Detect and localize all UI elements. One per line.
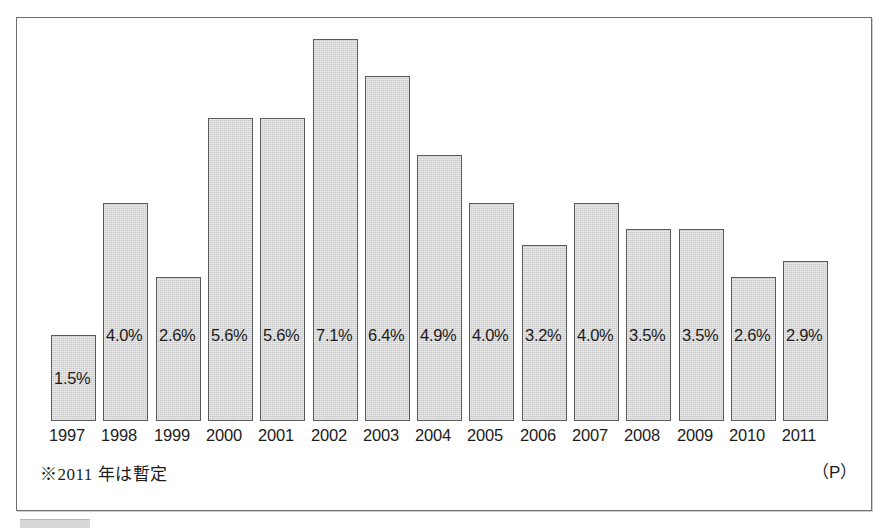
- bar-value-label: 3.5%: [629, 326, 681, 345]
- bar: [417, 155, 462, 421]
- bar-value-label: 5.6%: [211, 326, 263, 345]
- bar-value-label: 1.5%: [54, 369, 106, 388]
- x-axis-tick-label: 2007: [560, 426, 620, 445]
- bar-value-label: 4.0%: [106, 326, 158, 345]
- bar-value-label: 5.6%: [263, 326, 315, 345]
- x-axis-tick-label: 2005: [455, 426, 515, 445]
- x-axis-tick-label: 2010: [717, 426, 777, 445]
- bar: [574, 203, 619, 421]
- bar-chart-plot-area: 1.5%4.0%2.6%5.6%5.6%7.1%6.4%4.9%4.0%3.2%…: [16, 17, 872, 421]
- x-axis-tick-label: 1999: [142, 426, 202, 445]
- bar: [469, 203, 514, 421]
- bar: [365, 76, 410, 421]
- bar: [260, 118, 305, 421]
- x-axis-year-labels: 1997199819992000200120022003200420052006…: [16, 426, 872, 452]
- bar: [626, 229, 671, 421]
- chart-footnote: ※2011 年は暫定: [40, 460, 168, 485]
- bar-value-label: 2.9%: [786, 326, 838, 345]
- x-axis-tick-label: 2002: [299, 426, 359, 445]
- bar: [103, 203, 148, 421]
- bar-value-label: 2.6%: [734, 326, 786, 345]
- bar-value-label: 3.5%: [682, 326, 734, 345]
- x-axis-tick-label: 2006: [508, 426, 568, 445]
- bar-value-label: 7.1%: [316, 326, 368, 345]
- bar-value-label: 3.2%: [525, 326, 577, 345]
- bar: [156, 277, 201, 421]
- bar: [679, 229, 724, 421]
- x-axis-tick-label: 2000: [194, 426, 254, 445]
- bar: [208, 118, 253, 421]
- scan-edge-artifact: [20, 519, 90, 528]
- bar: [313, 39, 358, 421]
- bar-value-label: 4.0%: [472, 326, 524, 345]
- bar-value-label: 4.0%: [577, 326, 629, 345]
- x-axis-tick-label: 1998: [89, 426, 149, 445]
- x-axis-tick-label: 2004: [403, 426, 463, 445]
- bar-value-label: 6.4%: [368, 326, 420, 345]
- preliminary-marker-label: （P）: [812, 458, 857, 483]
- x-axis-tick-label: 2008: [612, 426, 672, 445]
- x-axis-tick-label: 2003: [351, 426, 411, 445]
- chart-page: 1.5%4.0%2.6%5.6%5.6%7.1%6.4%4.9%4.0%3.2%…: [0, 0, 887, 528]
- bar-value-label: 4.9%: [420, 326, 472, 345]
- x-axis-tick-label: 1997: [37, 426, 97, 445]
- bar: [731, 277, 776, 421]
- x-axis-tick-label: 2009: [665, 426, 725, 445]
- bar-value-label: 2.6%: [159, 326, 211, 345]
- x-axis-tick-label: 2001: [246, 426, 306, 445]
- x-axis-tick-label: 2011: [769, 426, 829, 445]
